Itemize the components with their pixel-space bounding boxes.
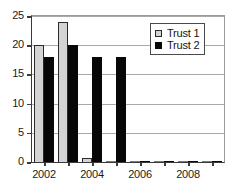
x-tick-mark: [92, 162, 94, 166]
bar-2004-series-2: [92, 57, 102, 162]
legend-swatch-icon-trust-1: [155, 30, 162, 37]
bar-2005-series-1: [106, 161, 116, 163]
chart-legend: Trust 1 Trust 2: [150, 23, 205, 55]
x-minor-tick-mark: [116, 162, 118, 166]
y-tick-mark: [27, 16, 31, 18]
bar-2003-series-2: [68, 45, 78, 162]
bar-2003-series-1: [58, 22, 68, 162]
legend-item-trust-1: Trust 1: [155, 27, 199, 39]
y-tick-label: 20: [0, 38, 24, 50]
y-tick-mark: [27, 133, 31, 135]
x-tick-mark: [44, 162, 46, 166]
bar-2004-series-1: [82, 158, 92, 162]
x-tick-mark: [140, 162, 142, 166]
bar-2006-series-1: [130, 161, 140, 163]
bar-2005-series-2: [116, 57, 126, 162]
y-tick-mark: [27, 162, 31, 164]
x-tick-label: 2002: [20, 168, 68, 180]
bar-2002-series-2: [44, 57, 54, 162]
y-tick-label: 15: [0, 67, 24, 79]
y-tick-mark: [27, 45, 31, 47]
x-tick-mark: [188, 162, 190, 166]
legend-item-trust-2: Trust 2: [155, 39, 199, 51]
y-tick-mark: [27, 74, 31, 76]
y-tick-label: 25: [0, 9, 24, 21]
y-tick-mark: [27, 104, 31, 106]
x-minor-tick-mark: [68, 162, 70, 166]
y-tick-label: 0: [0, 155, 24, 167]
y-tick-label: 10: [0, 97, 24, 109]
x-tick-label: 2006: [116, 168, 164, 180]
bar-2008-series-1: [178, 161, 188, 163]
bar-chart: 0510152025 2002200420062008 Trust 1 Trus…: [0, 0, 236, 192]
x-minor-tick-mark: [164, 162, 166, 166]
bar-2009-series-1: [202, 161, 212, 163]
x-tick-label: 2004: [68, 168, 116, 180]
legend-swatch-icon-trust-2: [155, 42, 162, 49]
legend-label-trust-2: Trust 2: [167, 39, 199, 51]
y-tick-label: 5: [0, 126, 24, 138]
x-minor-tick-mark: [212, 162, 214, 166]
legend-label-trust-1: Trust 1: [167, 27, 199, 39]
bar-2007-series-1: [154, 161, 164, 163]
x-tick-label: 2008: [164, 168, 212, 180]
bar-2002-series-1: [34, 45, 44, 162]
